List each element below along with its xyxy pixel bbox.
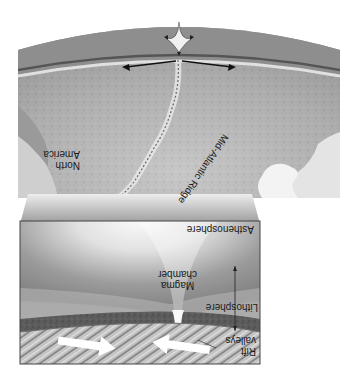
label-rift-line1: Rift	[225, 346, 256, 357]
zoom-connector	[20, 194, 260, 224]
label-asthenosphere: Asthenosphere	[187, 224, 254, 235]
label-lithosphere: Lithosphere	[206, 302, 258, 313]
label-rift-valleys: Rift valleys	[225, 335, 256, 356]
diagram-svg	[0, 0, 358, 376]
label-continent-line1: North	[43, 160, 80, 171]
label-magma-chamber: Magma chamber	[158, 269, 197, 290]
label-continent-line2: America	[43, 149, 80, 160]
label-rift-line2: valleys	[225, 335, 256, 346]
diagram-canvas: North America Mid-Atlantic Ridge Astheno…	[0, 0, 358, 376]
cross-section	[20, 221, 260, 364]
label-continent: North America	[43, 149, 80, 170]
label-magma-line1: Magma	[158, 280, 197, 291]
label-magma-line2: chamber	[158, 269, 197, 280]
